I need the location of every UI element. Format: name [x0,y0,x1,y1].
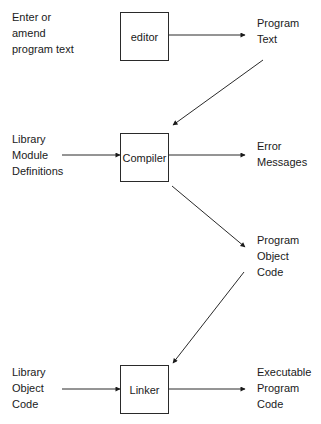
linker-box: Linker [120,365,169,414]
program-object-code-label: Program Object Code [257,232,299,280]
editor-label: editor [131,31,159,43]
arrow-program-text-to-compiler [173,60,263,125]
connector-arrows [0,0,321,424]
arrow-object-code-to-linker [173,272,244,363]
arrow-compiler-to-object-code [172,186,245,247]
enter-amend-label: Enter or amend program text [12,9,74,57]
editor-box: editor [120,12,169,61]
library-object-code-label: Library Object Code [12,364,46,412]
linker-label: Linker [130,384,160,396]
executable-program-code-label: Executable Program Code [257,364,311,412]
error-messages-label: Error Messages [257,138,307,170]
program-text-label: Program Text [257,15,299,47]
compiler-label: Compiler [122,152,166,164]
library-module-definitions-label: Library Module Definitions [12,131,63,179]
compiler-box: Compiler [120,133,169,182]
